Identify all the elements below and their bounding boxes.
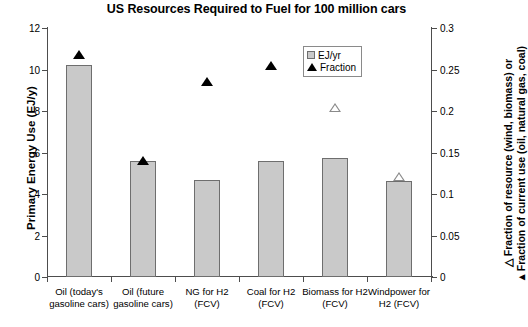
open-triangle-icon: △ [502, 259, 514, 267]
bar-oil-today[interactable] [66, 65, 92, 277]
x-category-coal-for-h2: Coal for H2 (FCV) [239, 286, 303, 309]
right-tick-label: 0.25 [440, 64, 459, 75]
left-tick-label: 8 [34, 106, 40, 117]
legend-entry-fraction: Fraction [307, 61, 356, 73]
fraction-marker-oil-future[interactable] [137, 156, 149, 165]
bar-oil-future[interactable] [130, 161, 156, 277]
right-axis-title-line-1: △ Fraction of resource (wind, biomass) o… [502, 38, 515, 288]
bar-biomass-for-h2[interactable] [322, 158, 348, 277]
fraction-marker-coal-for-h2[interactable] [265, 61, 277, 70]
x-category-oil-future: Oil (future gasoline cars) [111, 286, 175, 309]
fraction-marker-ng-for-h2[interactable] [201, 77, 213, 86]
x-category-windpower-for-h2: Windpower for H2 (FCV) [366, 286, 432, 309]
resource-marker-windpower-for-h2[interactable] [393, 172, 405, 181]
left-axis-line [47, 27, 48, 278]
fraction-marker-oil-today[interactable] [73, 50, 85, 59]
right-tick-label: 0.05 [440, 230, 459, 241]
x-category-oil-today: Oil (today's gasoline cars) [47, 286, 111, 309]
bar-coal-for-h2[interactable] [258, 161, 284, 277]
legend: EJ/yr Fraction [303, 46, 362, 77]
legend-label: Fraction [320, 62, 356, 73]
chart-title: US Resources Required to Fuel for 100 mi… [0, 2, 513, 16]
bar-windpower-for-h2[interactable] [386, 181, 412, 277]
x-category-ng-for-h2: NG for H2 (FCV) [175, 286, 239, 309]
legend-entry-ej-per-yr: EJ/yr [307, 49, 356, 61]
x-category-biomass-for-h2: Biomass for H2 (FCV) [301, 286, 369, 309]
right-axis-title: △ Fraction of resource (wind, biomass) o… [502, 38, 528, 288]
left-tick-label: 2 [34, 230, 40, 241]
right-tick-label: 0 [440, 272, 446, 283]
right-tick-label: 0.3 [440, 23, 454, 34]
left-tick-label: 10 [29, 64, 40, 75]
legend-label: EJ/yr [318, 50, 341, 61]
right-tick-label: 0.1 [440, 189, 454, 200]
left-tick-label: 4 [34, 189, 40, 200]
right-tick-label: 0.15 [440, 147, 459, 158]
square-swatch-icon [307, 51, 315, 59]
right-axis-title-line-2: ▴ Fraction of current use (oil, natural … [515, 38, 528, 288]
filled-triangle-swatch-icon [307, 63, 317, 71]
right-tick-label: 0.2 [440, 106, 454, 117]
left-tick-label: 0 [34, 272, 40, 283]
resource-marker-biomass-for-h2[interactable] [329, 103, 341, 112]
left-tick-label: 6 [34, 147, 40, 158]
filled-triangle-icon: ▴ [515, 274, 527, 280]
left-tick-label: 12 [29, 23, 40, 34]
bar-ng-for-h2[interactable] [194, 180, 220, 278]
